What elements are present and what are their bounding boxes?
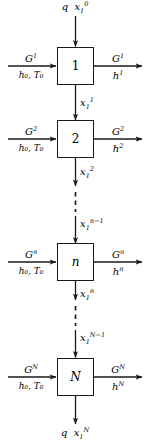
outlet-gas-label-stage-2: G2 xyxy=(112,127,124,137)
stage-box-1-label: 1 xyxy=(72,60,80,72)
top-feed-q: q xyxy=(62,1,68,12)
top-feed-x-sup: 0 xyxy=(84,0,88,8)
inlet-conditions-label-stage-2: h₀, T₀ xyxy=(19,144,44,153)
inlet-gas-label-stage-2: G2 xyxy=(25,127,37,137)
stage-box-2[interactable]: 2 xyxy=(57,120,94,158)
inlet-gas-label-stage-N: GN xyxy=(24,365,38,375)
outlet-gas-label-stage-N: GN xyxy=(111,365,125,375)
bottom-product-q: q xyxy=(61,427,67,438)
inlet-gas-label-stage-1: G1 xyxy=(25,54,37,64)
stage-box-N[interactable]: N xyxy=(57,358,94,396)
stream-label-into-N: x1N−1 xyxy=(80,333,105,343)
stage-box-1[interactable]: 1 xyxy=(57,47,94,85)
stream-label-1-to-2: x11 xyxy=(80,98,94,108)
stage-box-n[interactable]: n xyxy=(57,243,94,281)
outlet-enthalpy-label-stage-n: hn xyxy=(113,267,124,277)
process-flow-diagram: q x10 1 G1 h₀, T₀ G1 h1 x11 2 G2 h₀, T₀ … xyxy=(0,0,149,445)
stream-label-2-down: x12 xyxy=(80,167,94,177)
outlet-gas-label-stage-1: G1 xyxy=(112,54,124,64)
inlet-conditions-label-stage-n: h₀, T₀ xyxy=(19,267,44,276)
stream-label-into-n: x1n−1 xyxy=(80,219,104,229)
top-feed-label: q x10 xyxy=(62,2,89,12)
inlet-conditions-label-stage-1: h₀, T₀ xyxy=(19,71,44,80)
stage-box-N-label: N xyxy=(70,371,81,383)
outlet-enthalpy-label-stage-1: h1 xyxy=(113,71,124,81)
outlet-enthalpy-label-stage-2: h2 xyxy=(113,144,124,154)
top-feed-x-sub: 1 xyxy=(80,7,84,15)
inlet-gas-label-stage-n: Gn xyxy=(25,250,37,260)
bottom-product-x-sup: N xyxy=(83,426,89,434)
bottom-product-label: q x1N xyxy=(61,428,89,438)
stage-box-n-label: n xyxy=(72,256,80,268)
bottom-product-x-sub: 1 xyxy=(79,433,83,441)
outlet-enthalpy-label-stage-N: hN xyxy=(112,382,124,392)
outlet-gas-label-stage-n: Gn xyxy=(112,250,124,260)
inlet-conditions-label-stage-N: h₀, T₀ xyxy=(19,382,44,391)
stage-box-2-label: 2 xyxy=(72,133,80,145)
stream-label-n-down: x1n xyxy=(80,289,94,299)
